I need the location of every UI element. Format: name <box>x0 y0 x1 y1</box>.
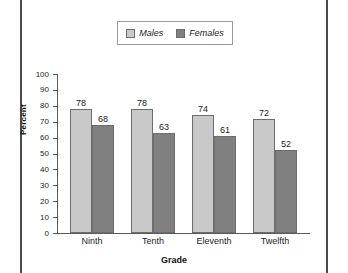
y-axis-tick: 50 <box>53 154 58 155</box>
bar-group-bars: 7252 <box>253 74 297 233</box>
x-axis-line <box>57 233 310 234</box>
y-axis-tick: 90 <box>53 90 58 91</box>
legend-item-females: Females <box>176 29 224 38</box>
bar-value-label: 61 <box>220 126 230 135</box>
y-axis-tick-label: 90 <box>40 86 49 94</box>
y-axis-tick: 70 <box>53 122 58 123</box>
bar-chart-figure: Males Females Percent 010203040506070809… <box>0 0 348 273</box>
plot-area: 0102030405060708090100 7868Ninth7863Tent… <box>58 74 310 233</box>
y-axis-tick: 100 <box>53 74 58 75</box>
legend-swatch-females <box>176 29 185 38</box>
bar-value-label: 68 <box>98 115 108 124</box>
x-axis-category-label: Twelfth <box>253 237 297 246</box>
y-axis-tick: 40 <box>53 169 58 170</box>
y-axis-tick: 20 <box>53 201 58 202</box>
y-axis-tick-label: 100 <box>36 71 49 79</box>
y-axis-tick-label: 70 <box>40 118 49 126</box>
y-axis-tick: 30 <box>53 185 58 186</box>
x-axis-category-label: Tenth <box>131 237 175 246</box>
y-axis-tick-label: 40 <box>40 166 49 174</box>
bar-value-label: 72 <box>259 109 269 118</box>
bar-ninth-females[interactable]: 68 <box>92 125 114 233</box>
bar-eleventh-males[interactable]: 74 <box>192 115 214 233</box>
bar-value-label: 52 <box>281 140 291 149</box>
bar-value-label: 78 <box>137 99 147 108</box>
legend-label-males: Males <box>139 29 163 38</box>
frame-rule-left <box>20 0 22 273</box>
bar-group-bars: 7461 <box>192 74 236 233</box>
y-axis-tick: 80 <box>53 106 58 107</box>
frame-rule-right <box>326 0 328 273</box>
y-axis-tick-label: 10 <box>40 214 49 222</box>
legend-item-males: Males <box>126 29 163 38</box>
bar-tenth-females[interactable]: 63 <box>153 133 175 233</box>
legend-label-females: Females <box>189 29 224 38</box>
y-axis-tick-label: 30 <box>40 182 49 190</box>
bar-ninth-males[interactable]: 78 <box>70 109 92 233</box>
bar-eleventh-females[interactable]: 61 <box>214 136 236 233</box>
chart-legend: Males Females <box>117 21 233 45</box>
bar-group-bars: 7868 <box>70 74 114 233</box>
y-axis-title: Percent <box>20 104 28 135</box>
x-axis-category-label: Eleventh <box>192 237 236 246</box>
x-axis-category-label: Ninth <box>70 237 114 246</box>
bar-group-bars: 7863 <box>131 74 175 233</box>
x-axis-title: Grade <box>0 256 348 265</box>
bar-tenth-males[interactable]: 78 <box>131 109 153 233</box>
y-axis-tick-label: 80 <box>40 102 49 110</box>
legend-swatch-males <box>126 29 135 38</box>
y-axis-tick: 10 <box>53 217 58 218</box>
y-axis-tick-label: 20 <box>40 198 49 206</box>
y-axis-tick-label: 50 <box>40 150 49 158</box>
bar-twelfth-males[interactable]: 72 <box>253 119 275 233</box>
bar-value-label: 74 <box>198 105 208 114</box>
y-axis-tick: 0 <box>53 233 58 234</box>
y-axis-tick-label: 60 <box>40 134 49 142</box>
bar-value-label: 78 <box>76 99 86 108</box>
bar-value-label: 63 <box>159 123 169 132</box>
y-axis-tick-label: 0 <box>45 230 49 238</box>
bar-twelfth-females[interactable]: 52 <box>275 150 297 233</box>
y-axis-tick: 60 <box>53 138 58 139</box>
